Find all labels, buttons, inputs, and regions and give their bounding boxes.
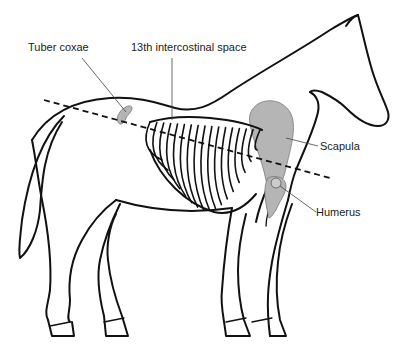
- back-line: [32, 15, 358, 140]
- hind-leg-front: [98, 204, 128, 336]
- ribcage-top: [150, 117, 262, 130]
- horse-anatomy-diagram: Tuber coxae 13th intercostinal space Sca…: [0, 0, 396, 352]
- rib-cage: [146, 122, 260, 210]
- hind-hoof-line-1: [50, 322, 70, 326]
- rib: [221, 128, 227, 199]
- label-humerus: Humerus: [316, 206, 361, 218]
- foreleg-front: [268, 200, 292, 336]
- label-intercostal-space: 13th intercostinal space: [131, 41, 247, 53]
- rib: [215, 127, 222, 205]
- horse-outline: [19, 15, 388, 336]
- hind-hoof-line-2: [104, 318, 124, 322]
- rib: [242, 129, 247, 172]
- neck-front: [288, 92, 319, 200]
- shoulder-joint: [271, 178, 281, 188]
- rib: [235, 129, 239, 183]
- leader-tuber-coxae: [82, 58, 126, 112]
- foreleg-rear: [221, 208, 250, 336]
- tail-outline: [19, 116, 64, 258]
- label-scapula: Scapula: [320, 140, 361, 152]
- ribcage-bottom: [150, 150, 256, 213]
- rib: [228, 128, 233, 191]
- label-tuber-coxae: Tuber coxae: [28, 41, 89, 53]
- head-outline: [310, 15, 389, 126]
